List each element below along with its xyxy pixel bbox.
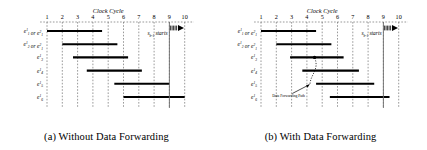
tick-label-4: 4	[305, 13, 308, 20]
row-label-6: e16	[251, 94, 257, 102]
row-label-5: e15	[251, 81, 257, 89]
tick-label-10: 10	[182, 13, 188, 20]
tick-label-6: 6	[336, 13, 339, 20]
axis-title-panel-a: Clock Cycle	[93, 7, 124, 14]
tick-label-3: 3	[290, 13, 293, 20]
start-marker-panel-a: sb-1 starts	[147, 22, 184, 108]
row-label-3: e13	[37, 54, 43, 62]
bars-panel-a	[47, 31, 185, 97]
row-label-2: e12 or e21	[238, 41, 258, 50]
row-label-4: e14	[251, 68, 257, 76]
tick-label-4: 4	[91, 13, 94, 20]
axis-title: Clock Cycle	[93, 7, 124, 14]
axis-title: Clock Cycle	[307, 7, 338, 14]
tick-labels-panel-b: 12345678910	[259, 13, 401, 20]
caption-panel-b: (b) With Data Forwarding	[214, 131, 427, 142]
row-label-1: e11 or e21	[238, 28, 257, 37]
forwarding-path-endpoint-dot	[313, 56, 316, 59]
tick-label-7: 7	[351, 13, 354, 20]
gridlines-panel-a	[40, 22, 194, 108]
pipeline-timing-figure: 12345678910 Clock Cycle e11 or e21e12 or…	[0, 0, 427, 150]
row-label-2: e12 or e21	[24, 41, 44, 50]
row-label-4: e14	[37, 68, 43, 76]
axis-title-panel-b: Clock Cycle	[307, 7, 338, 14]
caption-panel-a: (a) Without Data Forwarding	[0, 131, 213, 142]
tick-label-1: 1	[259, 13, 262, 20]
tick-label-5: 5	[107, 13, 110, 20]
tick-label-3: 3	[76, 13, 79, 20]
start-marker-panel-b: sb-1 starts	[361, 22, 398, 108]
start-marker-label: sb-1 starts	[361, 30, 381, 38]
tick-label-5: 5	[321, 13, 324, 20]
tick-label-2: 2	[275, 13, 278, 20]
arrow-head-icon	[178, 25, 184, 31]
tick-label-6: 6	[122, 13, 125, 20]
tick-label-9: 9	[382, 13, 385, 20]
bars-panel-b	[261, 31, 390, 97]
tick-label-10: 10	[396, 13, 402, 20]
start-marker-label: sb-1 starts	[147, 30, 167, 38]
row-labels-panel-b: e11 or e21e12 or e21e13e14e15e16	[238, 28, 258, 102]
row-label-3: e13	[251, 54, 257, 62]
tick-label-2: 2	[61, 13, 64, 20]
panel-a-plot: 12345678910 Clock Cycle e11 or e21e12 or…	[0, 0, 213, 115]
tick-labels-panel-a: 12345678910	[45, 13, 187, 20]
arrow-head-icon	[392, 25, 398, 31]
panel-with-data-forwarding: 12345678910 Clock Cycle e11 or e21e12 or…	[214, 0, 427, 150]
panel-b-plot: 12345678910 Clock Cycle e11 or e21e12 or…	[214, 0, 427, 115]
tick-label-7: 7	[137, 13, 140, 20]
row-label-1: e11 or e21	[24, 28, 43, 37]
tick-label-8: 8	[153, 13, 156, 20]
tick-label-9: 9	[168, 13, 171, 20]
row-labels-panel-a: e11 or e21e12 or e21e13e14e15e16	[24, 28, 44, 102]
panel-without-data-forwarding: 12345678910 Clock Cycle e11 or e21e12 or…	[0, 0, 213, 150]
data-forwarding-path-annotation: Data Forwarding Path	[272, 56, 316, 98]
tick-label-8: 8	[367, 13, 370, 20]
row-label-6: e16	[37, 94, 43, 102]
row-label-5: e15	[37, 81, 43, 89]
tick-label-1: 1	[45, 13, 48, 20]
forwarding-path-label: Data Forwarding Path	[272, 94, 305, 98]
